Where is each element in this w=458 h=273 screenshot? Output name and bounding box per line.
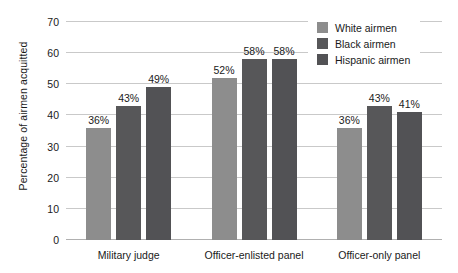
legend-item: Black airmen (317, 36, 410, 51)
bar-value-label: 36% (339, 114, 360, 126)
bar: 36% (86, 128, 111, 240)
legend-swatch-icon (317, 54, 328, 65)
bar: 43% (116, 106, 141, 240)
y-axis-tick-label: 0 (53, 234, 59, 246)
bar: 41% (397, 112, 422, 240)
x-axis-category-label: Officer-enlisted panel (204, 249, 303, 261)
bar-value-label: 58% (273, 45, 294, 57)
y-axis-tick-label: 40 (47, 109, 59, 121)
bar: 52% (212, 78, 237, 240)
bar-chart: Percentage of airmen acquitted 010203040… (0, 0, 458, 273)
bar: 49% (146, 87, 171, 240)
x-axis-category-label: Military judge (98, 249, 160, 261)
bar-value-label: 43% (118, 92, 139, 104)
bar: 58% (272, 59, 297, 240)
legend-item-label: Black airmen (335, 38, 396, 50)
x-axis-category-label: Officer-only panel (338, 249, 420, 261)
legend-item-label: White airmen (335, 22, 397, 34)
bar-value-label: 36% (88, 114, 109, 126)
y-axis-tick-label: 30 (47, 141, 59, 153)
bar-value-label: 43% (369, 92, 390, 104)
bar: 43% (367, 106, 392, 240)
legend-swatch-icon (317, 38, 328, 49)
legend-swatch-icon (317, 22, 328, 33)
bar-value-label: 52% (213, 64, 234, 76)
y-axis-tick-label: 60 (47, 47, 59, 59)
chart-legend: White airmenBlack airmenHispanic airmen (308, 11, 420, 76)
bar-value-label: 41% (399, 98, 420, 110)
legend-item: White airmen (317, 20, 410, 35)
bar: 58% (242, 59, 267, 240)
bar-value-label: 58% (243, 45, 264, 57)
legend-item: Hispanic airmen (317, 52, 410, 67)
y-axis-title: Percentage of airmen acquitted (17, 0, 29, 232)
y-axis-tick-label: 10 (47, 203, 59, 215)
y-axis-tick-label: 20 (47, 172, 59, 184)
y-axis-tick-label: 50 (47, 78, 59, 90)
bar: 36% (337, 128, 362, 240)
legend-item-label: Hispanic airmen (335, 54, 410, 66)
y-axis-tick-label: 70 (47, 16, 59, 28)
bar-value-label: 49% (148, 73, 169, 85)
